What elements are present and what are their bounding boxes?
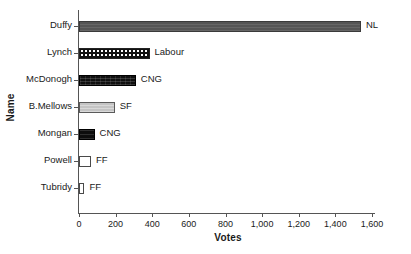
bar-party-label: FF xyxy=(96,154,108,165)
bar-party-label: Labour xyxy=(155,46,185,57)
x-axis-tick xyxy=(152,213,153,217)
bar-row: DuffyNL xyxy=(78,13,375,40)
x-axis-tick-label: 0 xyxy=(76,219,81,229)
y-axis-title-text: Name xyxy=(5,93,16,121)
y-axis-tick xyxy=(74,26,78,27)
category-label: Powell xyxy=(44,154,72,165)
y-axis-tick xyxy=(74,188,78,189)
x-axis-tick-label: 1,600 xyxy=(361,219,384,229)
category-label: B.Mellows xyxy=(29,100,72,111)
category-label: Duffy xyxy=(50,19,72,30)
y-axis-tick xyxy=(74,53,78,54)
bar-row: McDonoghCNG xyxy=(78,67,375,94)
bar-party-label: CNG xyxy=(141,73,162,84)
bar-row: PowellFF xyxy=(78,148,375,175)
bar-row: TubridyFF xyxy=(78,175,375,202)
y-axis-tick xyxy=(74,134,78,135)
plot-area: DuffyNLLynchLabourMcDonoghCNGB.MellowsSF… xyxy=(78,10,375,213)
x-axis-tick xyxy=(189,213,190,217)
x-axis-tick-label: 200 xyxy=(108,219,123,229)
bar xyxy=(79,21,361,32)
x-axis-tick-label: 600 xyxy=(181,219,196,229)
x-axis-title: Votes xyxy=(78,232,378,243)
bar xyxy=(79,156,91,167)
bar-chart: Name DuffyNLLynchLabourMcDonoghCNGB.Mell… xyxy=(0,0,411,254)
y-axis-title: Name xyxy=(2,0,18,215)
x-axis-tick xyxy=(335,213,336,217)
x-axis-tick xyxy=(299,213,300,217)
x-axis-tick-label: 800 xyxy=(218,219,233,229)
bar xyxy=(79,183,84,194)
category-label: Lynch xyxy=(47,46,72,57)
bar-row: B.MellowsSF xyxy=(78,94,375,121)
x-axis-tick xyxy=(116,213,117,217)
bar-party-label: NL xyxy=(366,19,378,30)
bar xyxy=(79,102,115,113)
bar-party-label: FF xyxy=(89,181,101,192)
x-axis-tick xyxy=(226,213,227,217)
category-label: McDonogh xyxy=(26,73,72,84)
bar xyxy=(79,75,136,86)
x-axis-tick-label: 1,400 xyxy=(324,219,347,229)
bar-row: MonganCNG xyxy=(78,121,375,148)
y-axis-tick xyxy=(74,80,78,81)
bar-party-label: CNG xyxy=(100,127,121,138)
x-axis-line xyxy=(78,213,375,214)
y-axis-tick xyxy=(74,107,78,108)
bar-row: LynchLabour xyxy=(78,40,375,67)
category-label: Tubridy xyxy=(41,181,72,192)
bar xyxy=(79,129,95,140)
x-axis-title-text: Votes xyxy=(214,232,242,243)
bar xyxy=(79,48,150,59)
bar-party-label: SF xyxy=(120,100,132,111)
y-axis-tick xyxy=(74,161,78,162)
x-axis-tick-label: 1,200 xyxy=(287,219,310,229)
x-axis-tick-label: 400 xyxy=(145,219,160,229)
category-label: Mongan xyxy=(38,127,72,138)
x-axis-tick xyxy=(79,213,80,217)
x-axis-tick xyxy=(262,213,263,217)
x-axis-tick xyxy=(372,213,373,217)
x-axis-tick-label: 1,000 xyxy=(251,219,274,229)
